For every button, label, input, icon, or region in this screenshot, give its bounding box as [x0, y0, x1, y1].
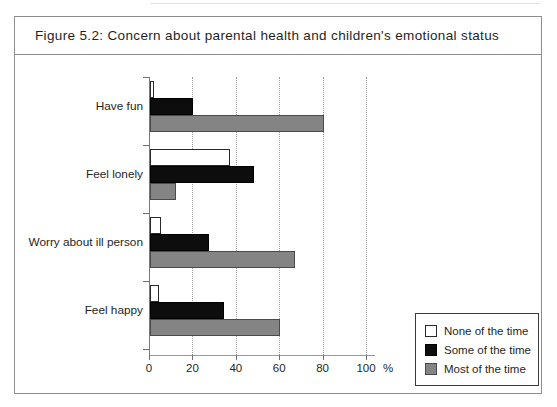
- x-axis-unit-label: %: [383, 362, 393, 374]
- legend-item: Most of the time: [425, 359, 530, 378]
- y-axis-tick: [143, 349, 149, 350]
- x-axis-tick-label: 20: [186, 362, 199, 374]
- legend-swatch-some: [425, 344, 437, 356]
- bar-none: [150, 149, 230, 166]
- category-label: Feel lonely: [27, 167, 143, 181]
- legend-swatch-none: [425, 325, 437, 337]
- bar-most: [150, 251, 295, 268]
- y-axis-tick: [143, 213, 149, 214]
- x-axis-tick: [192, 355, 193, 360]
- gridline: [366, 77, 368, 355]
- y-axis-tick: [143, 281, 149, 282]
- category-label: Feel happy: [27, 303, 143, 317]
- y-axis-tick: [143, 145, 149, 146]
- bar-most: [150, 319, 280, 336]
- scan-artifact-line: [150, 3, 540, 4]
- bar-some: [150, 166, 254, 183]
- bar-none: [150, 217, 161, 234]
- legend-item: Some of the time: [425, 340, 530, 359]
- bar-most: [150, 183, 176, 200]
- x-axis-line: [149, 355, 375, 356]
- figure-frame: Figure 5.2: Concern about parental healt…: [14, 16, 542, 394]
- category-label: Have fun: [27, 99, 143, 113]
- figure-caption: Figure 5.2: Concern about parental healt…: [15, 28, 499, 43]
- x-axis-tick-label: 100: [356, 362, 375, 374]
- chart-legend: None of the timeSome of the timeMost of …: [415, 313, 539, 386]
- x-axis-tick-label: 0: [146, 362, 152, 374]
- legend-swatch-most: [425, 363, 437, 375]
- category-label: Worry about ill person: [27, 235, 143, 249]
- y-axis-tick: [143, 77, 149, 78]
- x-axis-tick: [149, 355, 150, 360]
- x-axis-tick: [366, 355, 367, 360]
- x-axis-tick: [279, 355, 280, 360]
- x-axis-tick-label: 40: [229, 362, 242, 374]
- bar-none: [150, 81, 154, 98]
- bar-most: [150, 115, 324, 132]
- legend-label: Some of the time: [444, 344, 531, 356]
- bar-none: [150, 285, 159, 302]
- legend-label: Most of the time: [444, 363, 526, 375]
- x-axis-tick-label: 80: [316, 362, 329, 374]
- legend-label: None of the time: [444, 325, 528, 337]
- legend-item: None of the time: [425, 321, 530, 340]
- bar-some: [150, 98, 193, 115]
- x-axis-tick: [323, 355, 324, 360]
- bar-some: [150, 234, 209, 251]
- x-axis-tick-label: 60: [273, 362, 286, 374]
- x-axis-tick: [236, 355, 237, 360]
- figure-caption-bar: Figure 5.2: Concern about parental healt…: [15, 17, 541, 55]
- chart-plot-area: 020406080100 % Have funFeel lonelyWorry …: [15, 55, 541, 393]
- bar-some: [150, 302, 224, 319]
